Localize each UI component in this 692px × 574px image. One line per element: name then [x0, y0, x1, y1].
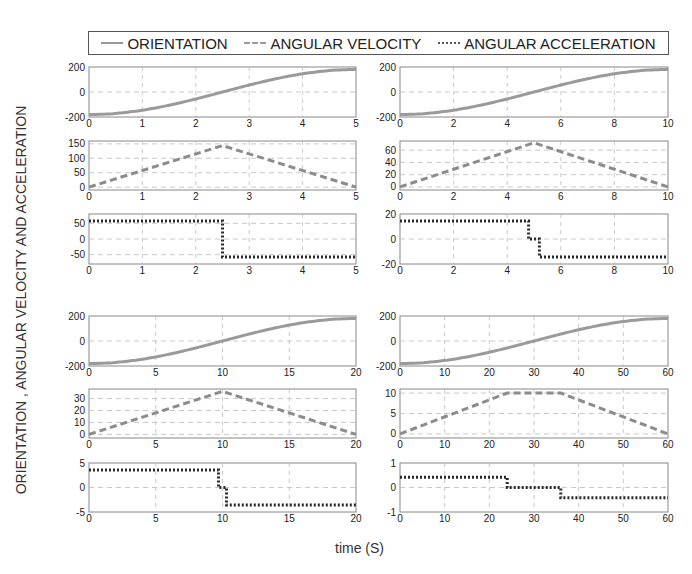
x-tick-label: 10 [217, 367, 229, 378]
x-tick-label: 0 [397, 118, 403, 129]
y-tick-label: 1 [390, 458, 396, 469]
y-tick-label: -200 [376, 112, 396, 123]
x-tick-label: 1 [140, 265, 146, 276]
y-tick-label: -20 [382, 259, 397, 270]
x-tick-label: 5 [353, 191, 359, 202]
y-tick-label: 5 [79, 458, 85, 469]
y-tick-label: 10 [74, 417, 86, 428]
x-tick-label: 2 [193, 118, 199, 129]
x-tick-label: 5 [153, 439, 159, 450]
y-tick-label: 20 [74, 405, 86, 416]
subplot-bottom-left-0: 05101520-2000200 [65, 311, 362, 379]
y-tick-label: 0 [79, 87, 85, 98]
x-tick-label: 4 [300, 265, 306, 276]
x-tick-label: 15 [284, 513, 296, 524]
y-tick-label: -5 [76, 507, 85, 518]
x-tick-label: 6 [558, 265, 564, 276]
subplot-bottom-right-2: 0102030405060-101 [387, 458, 674, 525]
x-tick-label: 0 [86, 191, 92, 202]
x-tick-label: 40 [573, 439, 585, 450]
x-tick-label: 0 [86, 367, 92, 378]
y-tick-label: 30 [74, 393, 86, 404]
y-tick-label: 200 [68, 311, 85, 322]
x-tick-label: 20 [350, 513, 362, 524]
y-tick-label: 50 [74, 167, 86, 178]
subplot-bottom-left-2: 05101520-505 [76, 458, 362, 525]
x-tick-label: 20 [484, 513, 496, 524]
x-tick-label: 2 [451, 191, 457, 202]
y-tick-label: 20 [385, 209, 397, 220]
x-tick-label: 4 [504, 118, 510, 129]
x-tick-label: 0 [397, 265, 403, 276]
y-tick-label: 0 [79, 234, 85, 245]
x-tick-label: 30 [528, 439, 540, 450]
y-tick-label: -200 [65, 361, 85, 372]
y-tick-label: 0 [390, 181, 396, 192]
x-tick-label: 10 [662, 118, 674, 129]
x-tick-label: 15 [284, 367, 296, 378]
x-tick-label: 1 [140, 191, 146, 202]
y-tick-label: 40 [385, 157, 397, 168]
y-tick-label: 5 [390, 408, 396, 419]
x-tick-label: 2 [451, 118, 457, 129]
x-tick-label: 40 [573, 367, 585, 378]
subplot-top-left-2: 012345-50050 [71, 214, 360, 276]
y-tick-label: 0 [390, 482, 396, 493]
x-tick-label: 30 [528, 367, 540, 378]
y-tick-label: 0 [79, 482, 85, 493]
x-tick-label: 10 [217, 513, 229, 524]
subplot-bottom-left-1: 051015200102030 [74, 389, 362, 450]
subplot-bottom-right-1: 01020304050600510 [385, 388, 674, 450]
x-tick-label: 0 [86, 513, 92, 524]
y-tick-label: 0 [79, 429, 85, 440]
y-tick-label: 0 [79, 182, 85, 193]
y-tick-label: 0 [390, 428, 396, 439]
x-tick-label: 5 [153, 367, 159, 378]
y-tick-label: 0 [390, 87, 396, 98]
x-tick-label: 20 [484, 367, 496, 378]
x-tick-label: 50 [618, 439, 630, 450]
x-tick-label: 10 [439, 439, 451, 450]
x-tick-label: 30 [528, 513, 540, 524]
x-tick-label: 60 [662, 513, 674, 524]
x-tick-label: 3 [246, 118, 252, 129]
y-tick-label: 200 [379, 62, 396, 73]
y-tick-label: -200 [376, 361, 396, 372]
y-tick-label: 50 [74, 218, 86, 229]
x-tick-label: 60 [662, 439, 674, 450]
y-tick-label: 200 [68, 62, 85, 73]
x-tick-label: 0 [86, 265, 92, 276]
x-tick-label: 50 [618, 367, 630, 378]
x-tick-label: 10 [439, 367, 451, 378]
x-tick-label: 4 [504, 191, 510, 202]
y-tick-label: 200 [379, 311, 396, 322]
x-tick-label: 40 [573, 513, 585, 524]
x-tick-label: 4 [504, 265, 510, 276]
x-tick-label: 5 [153, 513, 159, 524]
y-tick-label: -1 [387, 507, 396, 518]
y-tick-label: 10 [385, 388, 397, 399]
y-tick-label: 0 [79, 336, 85, 347]
x-tick-label: 6 [558, 191, 564, 202]
subplot-top-right-1: 02468100204060 [385, 141, 674, 202]
y-tick-label: 100 [68, 153, 85, 164]
x-tick-label: 0 [397, 513, 403, 524]
subplot-top-right-0: 0246810-2000200 [376, 62, 674, 130]
x-tick-label: 2 [193, 191, 199, 202]
x-tick-label: 0 [397, 191, 403, 202]
subplot-top-left-1: 012345050100150 [68, 138, 359, 202]
x-tick-label: 20 [484, 439, 496, 450]
x-tick-label: 10 [662, 265, 674, 276]
y-tick-label: 20 [385, 169, 397, 180]
y-tick-label: 0 [390, 234, 396, 245]
subplot-top-left-0: 012345-2000200 [65, 62, 359, 130]
x-tick-label: 5 [353, 265, 359, 276]
x-tick-label: 0 [86, 118, 92, 129]
x-tick-label: 0 [397, 367, 403, 378]
x-tick-label: 10 [217, 439, 229, 450]
subplot-top-right-2: 0246810-20020 [382, 209, 674, 277]
x-tick-label: 10 [439, 513, 451, 524]
subplot-grid: 012345-2000200012345050100150012345-5005… [0, 0, 692, 574]
x-tick-label: 20 [350, 439, 362, 450]
x-tick-label: 50 [618, 513, 630, 524]
